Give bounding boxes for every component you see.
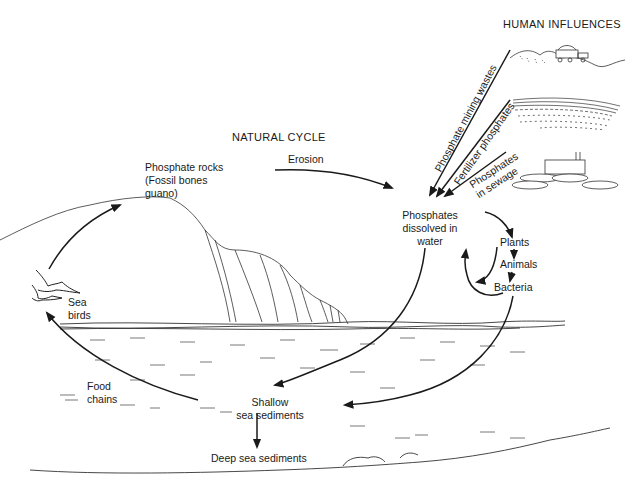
arrow-dissolved-to-shallow (275, 248, 425, 385)
arrow-animals-to-bacteria (510, 272, 512, 281)
shallow-sediments-label: Shallow sea sediments (220, 396, 320, 422)
plants-label: Plants (500, 236, 529, 249)
arrow-birds-to-rocks (49, 205, 120, 269)
food-chains-label: Food chains (87, 380, 117, 406)
arrow-erosion (275, 170, 392, 188)
arrow-return-inner (477, 247, 497, 282)
bacteria-label: Bacteria (494, 281, 533, 294)
water-texture (60, 338, 525, 438)
dissolved-phosphates-label: Phosphates dissolved in water (395, 209, 465, 248)
sea-birds-label: Sea birds (68, 296, 91, 322)
natural-cycle-heading: NATURAL CYCLE (232, 131, 326, 144)
animals-label: Animals (500, 258, 537, 271)
erosion-label: Erosion (288, 153, 324, 166)
mining-truck-icon (510, 46, 625, 67)
human-influences-heading: HUMAN INFLUENCES (503, 18, 621, 31)
sea-floor (30, 428, 610, 473)
phosphate-rocks-label: Phosphate rocks (Fossil bones guano) (145, 161, 223, 200)
water-surface (60, 321, 565, 330)
cliff-illustration (0, 197, 348, 324)
arrow-dissolved-to-plants (485, 212, 512, 237)
farm-field-icon (513, 98, 620, 130)
sewage-plant-icon (512, 152, 618, 189)
arrow-bacteria-to-shallow (345, 296, 513, 405)
arrow-food-chains (47, 313, 198, 400)
deep-sediments-label: Deep sea sediments (211, 452, 307, 465)
